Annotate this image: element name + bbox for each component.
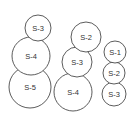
circle-stack2-s4: S-4 xyxy=(54,73,92,111)
circle-label: S-2 xyxy=(80,33,92,42)
circle-label: S-4 xyxy=(67,88,79,97)
circle-label: S-2 xyxy=(108,69,120,78)
circle-stack3-s3: S-3 xyxy=(102,82,126,106)
circle-label: S-3 xyxy=(32,24,44,33)
circle-label: S-3 xyxy=(108,90,120,99)
circle-label: S-5 xyxy=(24,83,36,92)
stacked-circles-diagram: S-5 S-4 S-3 S-4 S-3 S-2 S-3 xyxy=(0,0,138,120)
circle-stack1-s3: S-3 xyxy=(25,15,51,41)
stack-2: S-4 S-3 S-2 xyxy=(54,22,101,111)
stack-1: S-5 S-4 S-3 xyxy=(9,15,51,108)
circle-label: S-1 xyxy=(109,48,121,57)
circle-stack3-s1: S-1 xyxy=(104,41,126,63)
circle-stack3-s2: S-2 xyxy=(103,62,125,84)
circle-label: S-4 xyxy=(25,52,37,61)
circle-stack1-s4: S-4 xyxy=(12,37,50,75)
circle-label: S-3 xyxy=(71,58,83,67)
circle-stack2-s2: S-2 xyxy=(71,22,101,52)
stack-3: S-3 S-2 S-1 xyxy=(102,41,126,106)
